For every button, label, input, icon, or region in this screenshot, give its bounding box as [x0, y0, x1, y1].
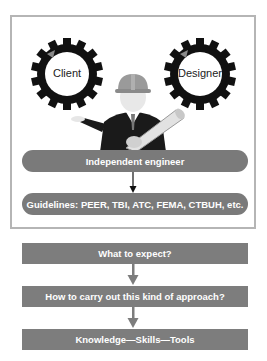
independent-engineer-pill: Independent engineer: [22, 150, 248, 172]
flow-box-how-to-carry-out: How to carry out this kind of approach?: [22, 286, 248, 307]
flow-box-what-to-expect: What to expect?: [22, 243, 248, 264]
arrow-down-icon: [128, 172, 138, 194]
guidelines-pill: Guidelines: PEER, TBI, ATC, FEMA, CTBUH,…: [22, 193, 248, 215]
flow-box-knowledge-skills-tools: Knowledge—Skills—Tools: [22, 329, 248, 350]
flow-arrow-down-icon: [127, 264, 139, 286]
engineer-figure-icon: [66, 62, 201, 152]
flow-arrow-down-icon: [127, 307, 139, 329]
